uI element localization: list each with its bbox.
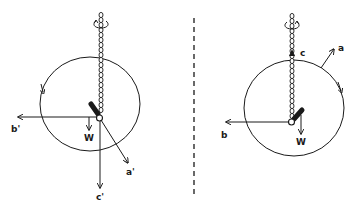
left-chain bbox=[99, 12, 103, 112]
left-label-w: W bbox=[84, 133, 94, 143]
diagram-canvas: b' W a' c' bbox=[0, 0, 357, 208]
right-panel: c a b W bbox=[221, 13, 344, 156]
right-pivot bbox=[289, 119, 295, 125]
left-label-a: a' bbox=[126, 167, 135, 177]
left-panel: b' W a' c' bbox=[11, 12, 140, 202]
right-arrow-a bbox=[321, 49, 334, 68]
right-label-c: c bbox=[300, 48, 305, 58]
left-label-c: c' bbox=[96, 192, 104, 202]
left-label-b: b' bbox=[11, 124, 20, 134]
right-label-w: W bbox=[296, 137, 306, 147]
right-label-a: a bbox=[338, 43, 344, 53]
left-weight-bar bbox=[91, 104, 98, 114]
right-label-b: b bbox=[221, 130, 228, 140]
left-arrow-a bbox=[101, 120, 128, 163]
